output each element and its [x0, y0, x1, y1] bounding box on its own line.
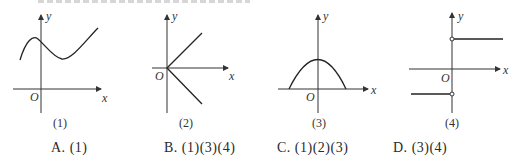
y-label: y [45, 9, 52, 23]
option-letter: C. [277, 140, 291, 155]
graph-caption-2: (2) [179, 116, 193, 130]
option-text: (3)(4) [412, 140, 448, 155]
ray-lower [167, 68, 202, 104]
option-d[interactable]: D. (3)(4) [393, 140, 447, 156]
answer-options: A. (1) B. (1)(3)(4) C. (1)(2)(3) D. (3)(… [0, 140, 518, 160]
origin-label: O [30, 90, 39, 104]
option-letter: A. [51, 140, 66, 155]
origin-label: O [306, 90, 315, 104]
option-text: (1) [70, 140, 88, 155]
x-label: x [502, 63, 509, 77]
y-label: y [457, 9, 464, 23]
y-label: y [171, 9, 178, 23]
open-circle-lower [450, 92, 454, 96]
graph-caption-3: (3) [312, 116, 326, 130]
option-letter: D. [393, 140, 408, 155]
origin-label: O [155, 69, 164, 83]
open-circle-upper [450, 37, 454, 41]
option-c[interactable]: C. (1)(2)(3) [277, 140, 348, 156]
x-label: x [370, 83, 377, 97]
option-b[interactable]: B. (1)(3)(4) [164, 140, 235, 156]
graph-1: y x O (1) [13, 9, 108, 130]
option-text: (1)(3)(4) [182, 140, 235, 155]
option-text: (1)(2)(3) [295, 140, 348, 155]
option-letter: B. [164, 140, 178, 155]
x-label: x [101, 91, 108, 105]
graph-2: y x O (2) [152, 9, 235, 130]
y-label: y [322, 9, 329, 23]
graph-3: y x O (3) [278, 9, 377, 130]
x-label: x [228, 69, 235, 83]
graph-caption-1: (1) [53, 116, 67, 130]
graph-4: y x O (4) [409, 9, 509, 130]
graph-caption-4: (4) [445, 116, 459, 130]
curve-1 [20, 28, 98, 60]
origin-label: O [441, 71, 450, 85]
option-a[interactable]: A. (1) [51, 140, 87, 156]
ray-upper [167, 33, 202, 68]
